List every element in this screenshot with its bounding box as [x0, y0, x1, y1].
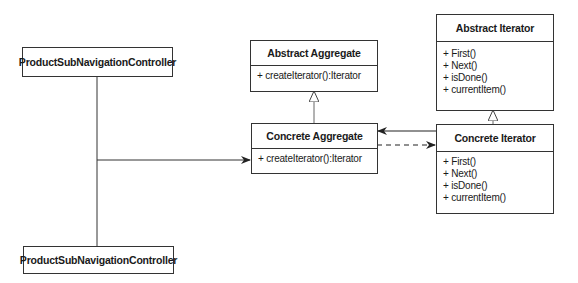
operation: + First() [443, 156, 553, 168]
operations-compartment: + First() + Next() + isDone() + currentI… [437, 151, 553, 204]
controller-bottom-class[interactable]: ProductSubNavigationController [23, 246, 174, 274]
operation: + Next() [443, 60, 553, 72]
class-name: Concrete Aggregate [252, 124, 377, 148]
operations-compartment: + createIterator():Iterator [251, 65, 377, 82]
abstract-aggregate-class[interactable]: Abstract Aggregate + createIterator():It… [250, 40, 378, 92]
operation: + createIterator():Iterator [257, 70, 377, 82]
class-name: ProductSubNavigationController [19, 56, 176, 68]
class-name: Abstract Iterator [437, 15, 553, 41]
operation: + Next() [443, 168, 553, 180]
operation: + currentItem() [443, 192, 553, 204]
operation: + createIterator():Iterator [258, 153, 377, 165]
operation: + First() [443, 48, 553, 60]
operations-compartment: + First() + Next() + isDone() + currentI… [437, 41, 553, 96]
class-name: Concrete Iterator [437, 125, 553, 151]
operation: + currentItem() [443, 84, 553, 96]
class-name: Abstract Aggregate [251, 41, 377, 65]
operation: + isDone() [443, 72, 553, 84]
class-name: ProductSubNavigationController [20, 254, 177, 266]
abstract-iterator-class[interactable]: Abstract Iterator + First() + Next() + i… [436, 14, 554, 111]
controller-top-class[interactable]: ProductSubNavigationController [22, 47, 173, 77]
concrete-iterator-class[interactable]: Concrete Iterator + First() + Next() + i… [436, 124, 554, 214]
concrete-aggregate-class[interactable]: Concrete Aggregate + createIterator():It… [251, 123, 378, 174]
operations-compartment: + createIterator():Iterator [252, 148, 377, 165]
operation: + isDone() [443, 180, 553, 192]
